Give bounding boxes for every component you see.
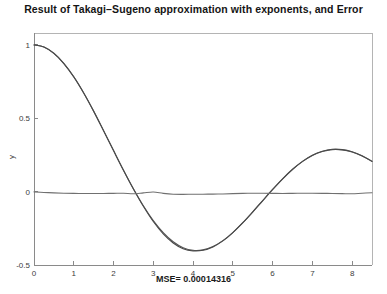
y-axis-title: y [7, 155, 16, 159]
y-axis-ticks [34, 45, 38, 265]
y-tick-label: 1 [26, 41, 31, 50]
y-axis-tick-labels: -0.500.51 [16, 41, 30, 270]
y-tick-label: 0 [26, 188, 31, 197]
data-series-group [34, 45, 372, 251]
y-tick-label: 0.5 [19, 114, 31, 123]
axis-frame [34, 33, 372, 265]
figure-canvas: Result of Takagi–Sugeno approximation wi… [0, 0, 387, 294]
series-line-takagi-sugeno-approximation [34, 45, 372, 251]
x-axis-ticks [34, 261, 352, 265]
chart-plot-area: 012345678 -0.500.51 y [0, 0, 387, 294]
y-tick-label: -0.5 [16, 261, 30, 270]
series-line-approximation-error [34, 192, 372, 194]
x-axis-label-mse: MSE= 0.00014316 [0, 274, 387, 284]
series-line-target-function [34, 45, 372, 251]
